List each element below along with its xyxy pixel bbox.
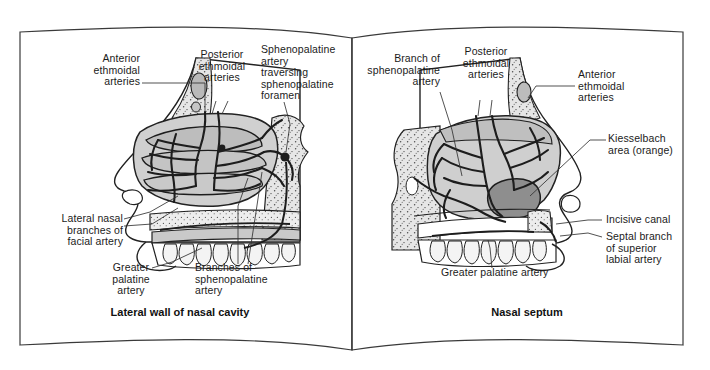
label-anterior-ethmoidal-arteries-right: Anterior ethmoidal arteries	[578, 69, 664, 104]
label-greater-palatine-artery-left: Greater palatine artery	[100, 262, 162, 297]
label-sphenopalatine-artery-foramen: Sphenopalatine artery traversing sphenop…	[261, 44, 351, 102]
artery-junction-node	[219, 145, 226, 152]
nasal-vestibule-right	[561, 195, 580, 212]
frontal-sinus-right	[517, 82, 531, 102]
label-greater-palatine-artery-right: Greater palatine artery	[441, 267, 591, 279]
caption-lateral-wall: Lateral wall of nasal cavity	[80, 306, 280, 318]
label-septal-branch-superior-labial-artery: Septal branch of superior labial artery	[606, 231, 698, 266]
label-branches-of-sphenopalatine-artery: Branches of sphenopalatine artery	[195, 262, 287, 297]
label-posterior-ethmoidal-arteries-left: Posterior ethmoidal arteries	[186, 49, 258, 84]
label-lateral-nasal-branches-facial-artery: Lateral nasal branches of facial artery	[33, 213, 123, 248]
label-incisive-canal: Incisive canal	[606, 214, 698, 226]
figure-canvas: Anterior ethmoidal arteries Posterior et…	[0, 0, 710, 370]
label-anterior-ethmoidal-arteries-left: Anterior ethmoidal arteries	[50, 53, 140, 88]
label-kiesselbach-area: Kiesselbach area (orange)	[608, 133, 700, 156]
middle-turbinate	[142, 150, 266, 173]
maxillary-teeth-right	[418, 240, 556, 267]
frontal-sinus-lower	[192, 102, 201, 112]
sphenopalatine-foramen-node	[280, 152, 289, 161]
hard-palate-bone	[150, 210, 300, 230]
label-branch-of-sphenopalatine-artery: Branch of sphenopalatine artery	[358, 53, 440, 88]
label-posterior-ethmoidal-arteries-right: Posterior ethmoidal arteries	[450, 46, 522, 81]
caption-nasal-septum: Nasal septum	[447, 306, 607, 318]
